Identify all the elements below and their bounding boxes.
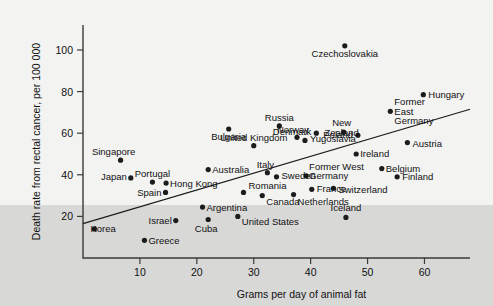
data-point[interactable] [163,190,168,195]
data-point[interactable] [265,170,270,175]
point-label: Czechoslovakia [312,48,379,59]
data-point[interactable] [241,190,246,195]
point-label: Spain [137,187,161,198]
data-point[interactable] [260,193,265,198]
x-tick-label: 10 [134,266,146,278]
data-point[interactable] [405,140,410,145]
data-point[interactable] [388,109,393,114]
point-label: Austria [412,138,442,149]
x-tick-label: 20 [191,266,203,278]
point-label: Ireland [360,148,389,159]
point-label: Hong Kong [170,178,218,189]
data-points-layer [92,43,426,243]
data-point[interactable] [128,175,133,180]
point-label: Canada [266,196,300,207]
point-label: FormerEastGermany [394,96,433,126]
point-label: Greece [148,235,179,246]
point-label: Iceland [331,202,362,213]
data-point[interactable] [150,179,155,184]
point-label: Former WestGermany [309,161,364,182]
point-label: Denmark [273,126,312,137]
data-point[interactable] [251,143,256,148]
data-point[interactable] [206,217,211,222]
point-label: United States [242,216,299,227]
scatter-plot: 20406080100102030405060 KoreaSingaporeJa… [0,0,493,306]
point-label: Korea [90,223,116,234]
data-point[interactable] [309,187,314,192]
data-point[interactable] [163,181,168,186]
y-tick-label: 20 [61,210,73,222]
point-label: Romania [248,180,287,191]
data-point[interactable] [173,218,178,223]
point-label: Argentina [207,202,248,213]
data-point[interactable] [354,151,359,156]
data-point[interactable] [302,138,307,143]
data-point[interactable] [343,215,348,220]
y-tick-label: 80 [61,86,73,98]
point-label: Poland [323,129,353,140]
point-label: Switzerland [338,184,387,195]
point-label: Australia [212,164,250,175]
point-label: Japan [101,171,127,182]
data-point[interactable] [395,174,400,179]
y-axis-title: Death rate from rectal cancer, per 100 0… [30,43,42,240]
point-labels-layer: KoreaSingaporeJapanGreecePortugalSpainHo… [90,48,464,246]
point-label: Hungary [428,89,464,100]
x-axis-title: Grams per day of animal fat [237,288,367,300]
data-point[interactable] [235,214,240,219]
data-point[interactable] [118,158,123,163]
data-point[interactable] [142,238,147,243]
figure-container: 20406080100102030405060 KoreaSingaporeJa… [0,0,493,306]
data-point[interactable] [206,167,211,172]
data-point[interactable] [274,174,279,179]
point-label: Cuba [195,223,218,234]
point-label: Israel [149,215,172,226]
y-tick-label: 60 [61,127,73,139]
x-tick-label: 50 [362,266,374,278]
y-tick-label: 100 [55,44,73,56]
x-tick-label: 30 [248,266,260,278]
point-label: Russia [265,112,295,123]
x-tick-label: 60 [419,266,431,278]
point-label: Portugal [135,168,170,179]
point-label: Italy [257,159,275,170]
point-label: Finland [402,171,433,182]
x-tick-label: 40 [305,266,317,278]
point-label: Singapore [92,146,135,157]
data-point[interactable] [379,166,384,171]
y-tick-label: 40 [61,169,73,181]
data-point[interactable] [200,204,205,209]
